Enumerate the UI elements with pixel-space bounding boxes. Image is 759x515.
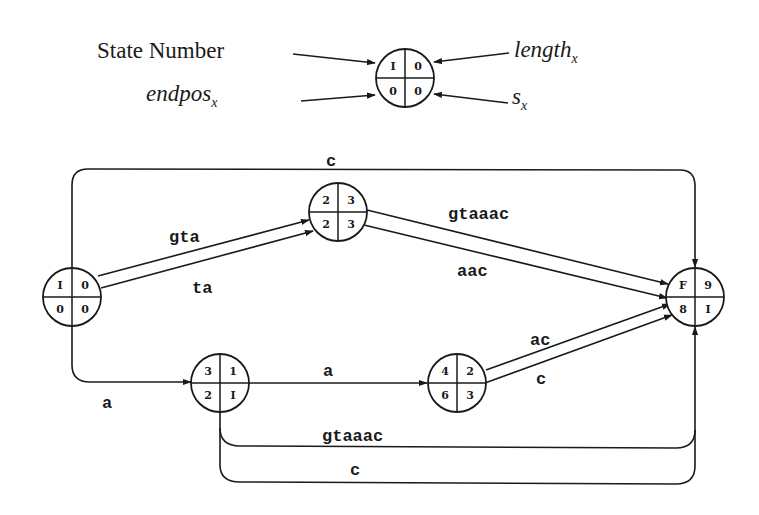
svg-text:2: 2 <box>322 194 330 207</box>
svg-text:I: I <box>230 389 235 402</box>
edge-label-ac: ac <box>530 331 550 350</box>
legend-endpos-label: endposx <box>146 81 218 110</box>
node-2: 2 3 2 3 <box>309 183 367 241</box>
svg-text:4: 4 <box>441 365 449 378</box>
edge-label-aac: aac <box>457 262 488 281</box>
edge-n2-F-upper <box>367 210 668 284</box>
svg-text:0: 0 <box>389 85 397 98</box>
svg-text:3: 3 <box>466 389 474 402</box>
legend-arrow-s <box>434 94 508 103</box>
edge-n2-F-lower <box>364 225 667 298</box>
edge-I-n3 <box>72 326 191 382</box>
edge-I-F-top <box>72 169 695 268</box>
svg-text:0: 0 <box>414 60 422 73</box>
edge-label-gta: gta <box>169 228 200 247</box>
svg-text:1: 1 <box>229 365 237 378</box>
svg-text:F: F <box>679 279 687 292</box>
node-initial: I 0 0 0 <box>43 268 101 326</box>
svg-text:2: 2 <box>204 389 212 402</box>
legend-node: I 0 0 0 <box>376 49 434 107</box>
legend-length-label: lengthx <box>514 37 579 66</box>
suffix-automaton-diagram: State Number endposx lengthx sx I 0 0 0 … <box>0 0 759 515</box>
legend-arrow-endpos <box>301 95 375 101</box>
svg-text:2: 2 <box>322 218 330 231</box>
svg-text:0: 0 <box>81 279 89 292</box>
edge-label-gtaaac-top: gtaaac <box>448 205 509 224</box>
node-4: 4 2 6 3 <box>428 354 486 412</box>
legend-arrow-length <box>434 53 509 62</box>
edge-label-a-left: a <box>102 394 112 413</box>
svg-text:0: 0 <box>81 303 89 316</box>
svg-text:3: 3 <box>347 218 355 231</box>
legend-state-number-label: State Number <box>97 38 224 63</box>
edge-n3-F-bottom2 <box>220 428 695 484</box>
svg-text:3: 3 <box>204 365 212 378</box>
svg-text:9: 9 <box>704 279 712 292</box>
svg-text:I: I <box>705 303 710 316</box>
svg-text:2: 2 <box>466 365 474 378</box>
svg-text:0: 0 <box>56 303 64 316</box>
legend-s-label: sx <box>512 84 528 113</box>
svg-text:I: I <box>57 279 62 292</box>
edge-n4-F-upper <box>486 304 670 370</box>
edges: c gta ta gtaaac aac a a ac c gtaaac c <box>72 152 695 484</box>
svg-text:I: I <box>390 60 395 73</box>
edge-label-I-F-top: c <box>326 152 336 171</box>
edge-n4-F-lower <box>485 315 672 383</box>
node-final: F 9 8 I <box>666 268 724 326</box>
svg-text:3: 3 <box>347 194 355 207</box>
edge-label-c-n4: c <box>536 370 546 389</box>
svg-text:6: 6 <box>441 389 449 402</box>
edge-label-a-mid: a <box>323 362 333 381</box>
edge-label-ta: ta <box>192 279 212 298</box>
legend-arrow-state-number <box>293 54 375 63</box>
legend: State Number endposx lengthx sx I 0 0 0 <box>97 37 579 113</box>
edge-label-gtaaac-bottom: gtaaac <box>322 427 383 446</box>
svg-text:8: 8 <box>679 303 687 316</box>
edge-label-c-bottom: c <box>350 461 360 480</box>
node-3: 3 1 2 I <box>191 354 249 412</box>
svg-text:0: 0 <box>414 85 422 98</box>
edge-I-n2-upper <box>98 220 309 276</box>
